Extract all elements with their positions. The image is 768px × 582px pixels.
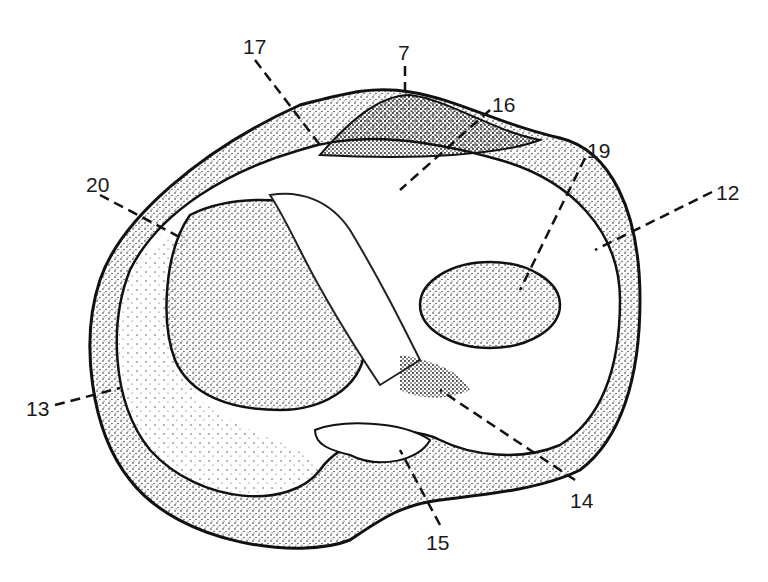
label-17: 17	[243, 36, 266, 57]
label-13: 13	[26, 398, 49, 419]
label-15: 15	[426, 532, 449, 553]
diagram-canvas: 17 7 16 19 12 20 13 14 15	[0, 0, 768, 582]
label-14: 14	[570, 490, 593, 511]
label-20: 20	[86, 174, 109, 195]
label-19: 19	[587, 140, 610, 161]
lateral-oval	[420, 262, 560, 348]
anatomy-illustration	[0, 0, 768, 582]
label-12: 12	[716, 182, 739, 203]
label-7: 7	[398, 42, 410, 63]
label-16: 16	[492, 94, 515, 115]
